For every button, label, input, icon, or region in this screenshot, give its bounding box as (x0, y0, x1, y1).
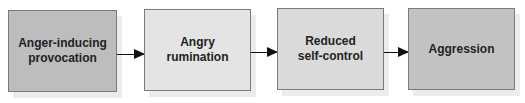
node-2-line-1: Angry (167, 35, 229, 50)
node-3-line-2: self-control (298, 49, 363, 64)
node-2-line-2: rumination (167, 50, 229, 65)
node-anger-inducing-provocation: Anger-inducing provocation (8, 10, 117, 92)
node-reduced-self-control: Reduced self-control (277, 8, 384, 90)
node-4-line-1: Aggression (428, 42, 494, 57)
node-aggression: Aggression (408, 8, 515, 90)
node-1-line-1: Anger-inducing (18, 36, 107, 51)
node-1-line-2: provocation (18, 51, 107, 66)
arrow-3-to-4 (384, 52, 408, 53)
arrow-1-to-2 (117, 54, 144, 55)
node-angry-rumination: Angry rumination (144, 9, 251, 91)
node-3-line-1: Reduced (298, 34, 363, 49)
arrow-2-to-3 (251, 52, 277, 53)
